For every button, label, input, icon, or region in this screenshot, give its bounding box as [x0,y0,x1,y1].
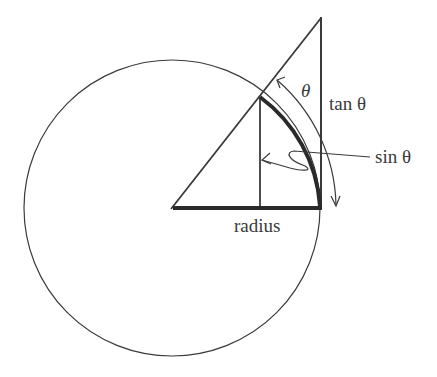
sin-label: sin θ [375,146,411,167]
secant-line [171,18,321,209]
sin-leader-line [262,151,370,170]
trig-diagram: θ tan θ sin θ radius [0,0,437,377]
tan-label: tan θ [329,93,366,114]
angle-arc [260,97,320,206]
radius-label: radius [234,215,280,236]
theta-label: θ [301,80,310,101]
